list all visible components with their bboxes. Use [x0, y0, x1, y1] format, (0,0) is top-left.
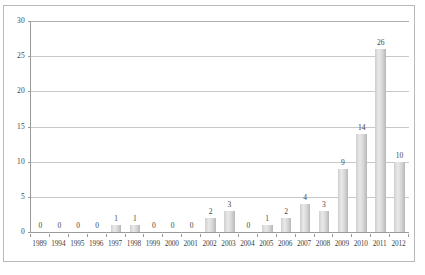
x-tick-mark [389, 234, 390, 237]
bar-group[interactable]: 0 [163, 21, 182, 232]
x-tick-mark [162, 234, 163, 237]
x-tick-label: 2000 [162, 239, 181, 248]
x-tick-label: 2002 [200, 239, 219, 248]
x-tick-label: 2011 [370, 239, 389, 248]
x-tick-mark [87, 234, 88, 237]
bar-value-label: 3 [315, 200, 334, 209]
bar-value-label: 2 [277, 207, 296, 216]
x-tick-label: 2001 [181, 239, 200, 248]
bar-value-label: 0 [144, 221, 163, 230]
x-tick-label: 1994 [49, 239, 68, 248]
x-tick-label: 2004 [238, 239, 257, 248]
x-tick-mark [332, 234, 333, 237]
bar-value-label: 1 [107, 214, 126, 223]
bar[interactable] [338, 169, 349, 232]
bar[interactable] [111, 225, 122, 232]
x-tick-label: 2009 [332, 239, 351, 248]
bar-group[interactable]: 3 [315, 21, 334, 232]
x-tick-label: 2006 [276, 239, 295, 248]
x-axis: 1989199419951996199719981999200020012002… [30, 234, 409, 250]
x-tick-mark [370, 234, 371, 237]
bar-group[interactable]: 26 [371, 21, 390, 232]
bar[interactable] [319, 211, 330, 232]
x-tick-mark [143, 234, 144, 237]
bar[interactable] [300, 204, 311, 232]
bar-value-label: 0 [239, 221, 258, 230]
bar-value-label: 2 [201, 207, 220, 216]
x-tick-label: 2005 [257, 239, 276, 248]
y-tick-label: 10 [17, 158, 25, 166]
bar[interactable] [281, 218, 292, 232]
bar[interactable] [130, 225, 141, 232]
bar-value-label: 0 [31, 221, 50, 230]
x-tick-mark [276, 234, 277, 237]
bar-group[interactable]: 0 [69, 21, 88, 232]
y-tick-label: 0 [21, 228, 25, 236]
x-tick-mark [49, 234, 50, 237]
x-tick-mark [219, 234, 220, 237]
x-tick-mark [181, 234, 182, 237]
bar[interactable] [375, 49, 386, 232]
x-tick-mark [106, 234, 107, 237]
x-tick-label: 1995 [68, 239, 87, 248]
y-tick-label: 20 [17, 87, 25, 95]
x-tick-mark [125, 234, 126, 237]
bar-group[interactable]: 3 [220, 21, 239, 232]
bar-group[interactable]: 1 [126, 21, 145, 232]
bar-value-label: 1 [126, 214, 145, 223]
bar-value-label: 10 [390, 151, 409, 160]
bar-group[interactable]: 0 [31, 21, 50, 232]
y-tick-label: 30 [17, 17, 25, 25]
bar-group[interactable]: 1 [258, 21, 277, 232]
bar-group[interactable]: 14 [352, 21, 371, 232]
bar[interactable] [205, 218, 216, 232]
bar-group[interactable]: 0 [182, 21, 201, 232]
x-tick-label: 1989 [30, 239, 49, 248]
x-tick-label: 1996 [87, 239, 106, 248]
x-tick-mark [257, 234, 258, 237]
x-tick-mark [295, 234, 296, 237]
bar-group[interactable]: 2 [201, 21, 220, 232]
x-tick-mark [408, 234, 409, 237]
bar[interactable] [224, 211, 235, 232]
bar[interactable] [356, 134, 367, 232]
x-tick-label: 2012 [389, 239, 408, 248]
x-tick-label: 2008 [314, 239, 333, 248]
x-tick-mark [200, 234, 201, 237]
bar-group[interactable]: 0 [144, 21, 163, 232]
x-tick-label: 1997 [106, 239, 125, 248]
x-tick-label: 2003 [219, 239, 238, 248]
bar-value-label: 26 [371, 38, 390, 47]
bar-group[interactable]: 2 [277, 21, 296, 232]
x-tick-mark [314, 234, 315, 237]
y-axis: 051015202530 [3, 21, 28, 233]
bar-value-label: 0 [69, 221, 88, 230]
bar-value-label: 0 [182, 221, 201, 230]
bar[interactable] [262, 225, 273, 232]
x-tick-label: 1998 [125, 239, 144, 248]
bar-group[interactable]: 0 [239, 21, 258, 232]
bar-group[interactable]: 10 [390, 21, 409, 232]
plot-area: 00001100023012439142610 [30, 21, 409, 233]
bar-group[interactable]: 0 [50, 21, 69, 232]
bar-value-label: 0 [50, 221, 69, 230]
bar-value-label: 14 [352, 123, 371, 132]
bar-value-label: 4 [296, 193, 315, 202]
x-tick-label: 2010 [351, 239, 370, 248]
bar[interactable] [394, 162, 405, 232]
bars-layer: 00001100023012439142610 [31, 21, 409, 232]
bar-group[interactable]: 1 [107, 21, 126, 232]
x-tick-label: 2007 [295, 239, 314, 248]
bar-group[interactable]: 9 [333, 21, 352, 232]
bar-value-label: 1 [258, 214, 277, 223]
x-tick-mark [238, 234, 239, 237]
bar-chart-figure: 051015202530 00001100023012439142610 198… [0, 0, 425, 275]
y-tick-label: 25 [17, 52, 25, 60]
bar-group[interactable]: 4 [296, 21, 315, 232]
x-tick-mark [351, 234, 352, 237]
bar-value-label: 9 [333, 158, 352, 167]
x-tick-mark [68, 234, 69, 237]
bar-group[interactable]: 0 [88, 21, 107, 232]
y-tick-label: 5 [21, 193, 25, 201]
bar-value-label: 3 [220, 200, 239, 209]
